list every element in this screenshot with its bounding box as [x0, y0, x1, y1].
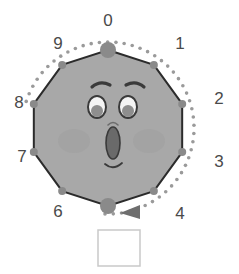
path-dot	[160, 59, 164, 63]
rotation-direction-arrow	[120, 205, 140, 219]
vertex-dot-0	[100, 42, 116, 58]
path-dot	[187, 156, 191, 160]
path-dot	[180, 171, 184, 175]
vertex-dot-8	[30, 100, 38, 108]
path-dot	[74, 47, 78, 51]
vertex-label-4: 4	[175, 204, 184, 223]
path-dot	[46, 65, 50, 69]
path-dot	[151, 200, 155, 204]
vertex-label-8: 8	[14, 93, 23, 112]
path-dot	[189, 148, 193, 152]
path-dot	[31, 84, 35, 88]
vertex-label-6: 6	[53, 202, 62, 221]
cheek-blush-left	[58, 129, 90, 153]
path-dot	[191, 115, 195, 119]
decagon-rotation-figure: 012346789	[0, 0, 239, 274]
pupil-right	[122, 105, 134, 117]
path-dot	[122, 42, 126, 46]
path-dot	[98, 41, 102, 45]
path-dot	[170, 184, 174, 188]
path-dot	[188, 99, 192, 103]
path-dot	[164, 190, 168, 194]
path-dot	[190, 107, 194, 111]
path-dot	[172, 70, 176, 74]
vertex-label-2: 2	[214, 89, 223, 108]
path-dot	[192, 123, 196, 127]
vertex-label-7: 7	[17, 147, 26, 166]
path-dot	[184, 164, 188, 168]
pupil-left	[91, 105, 103, 117]
vertex-label-3: 3	[214, 152, 223, 171]
path-dot	[114, 41, 118, 45]
diagram-canvas: 012346789	[0, 0, 239, 274]
vertex-label-9: 9	[53, 34, 62, 53]
vertex-dot-3	[178, 148, 186, 156]
path-dot	[175, 178, 179, 182]
cheek-blush-right	[133, 129, 165, 153]
path-dot	[40, 71, 44, 75]
path-dot	[81, 44, 85, 48]
path-dot	[177, 77, 181, 81]
vertex-dot-1	[150, 61, 158, 69]
path-dot	[138, 46, 142, 50]
mouth-shape	[106, 127, 120, 159]
vertex-dot-4	[150, 187, 158, 195]
path-dot	[24, 100, 28, 104]
path-dot	[27, 92, 31, 96]
path-dot	[35, 77, 39, 81]
decagon-shape	[34, 50, 182, 206]
vertex-dot-7	[30, 148, 38, 156]
path-dot	[153, 54, 157, 58]
path-dot	[158, 195, 162, 199]
path-dot	[130, 44, 134, 48]
path-dot	[191, 140, 195, 144]
path-dot	[166, 64, 170, 68]
path-dot	[146, 50, 150, 54]
path-dot	[59, 54, 63, 58]
vertex-dot-9	[58, 61, 66, 69]
path-dot	[89, 42, 93, 46]
answer-input-box[interactable]	[98, 230, 140, 266]
vertex-label-1: 1	[175, 34, 184, 53]
vertex-dot-6	[58, 187, 66, 195]
path-dot	[181, 84, 185, 88]
path-dot	[185, 91, 189, 95]
path-dot	[52, 59, 56, 63]
path-dot	[66, 50, 70, 54]
vertex-dot-2	[178, 100, 186, 108]
vertex-label-0: 0	[103, 11, 112, 30]
path-dot	[143, 204, 147, 208]
vertex-dot-5	[100, 198, 116, 214]
path-dot	[192, 132, 196, 136]
